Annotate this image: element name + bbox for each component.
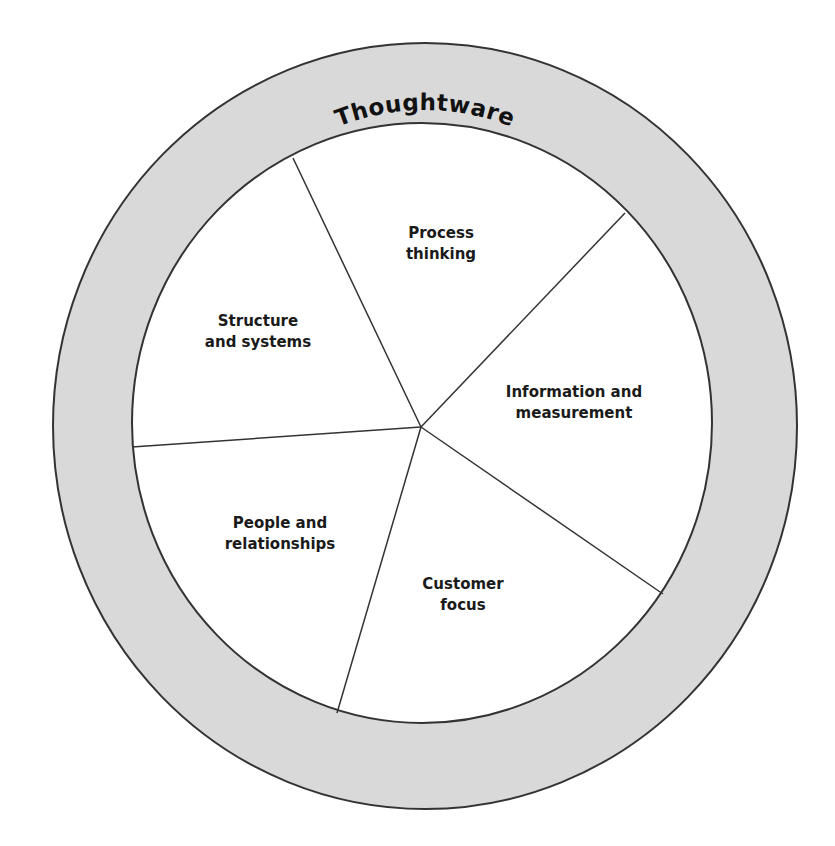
segment-label-line1: Structure (218, 312, 298, 330)
segment-label-line1: Customer (422, 575, 504, 593)
segment-label-line2: focus (440, 596, 485, 614)
thoughtware-diagram: Thoughtware Process thinking Information… (0, 0, 835, 846)
segment-label-line2: thinking (406, 245, 476, 263)
segment-label-line2: and systems (205, 333, 311, 351)
segment-label-line2: relationships (225, 535, 336, 553)
segment-label-line1: Information and (506, 383, 642, 401)
segment-label-line1: People and (233, 514, 327, 532)
segment-label-line2: measurement (516, 404, 633, 422)
segment-label-line1: Process (408, 224, 474, 242)
